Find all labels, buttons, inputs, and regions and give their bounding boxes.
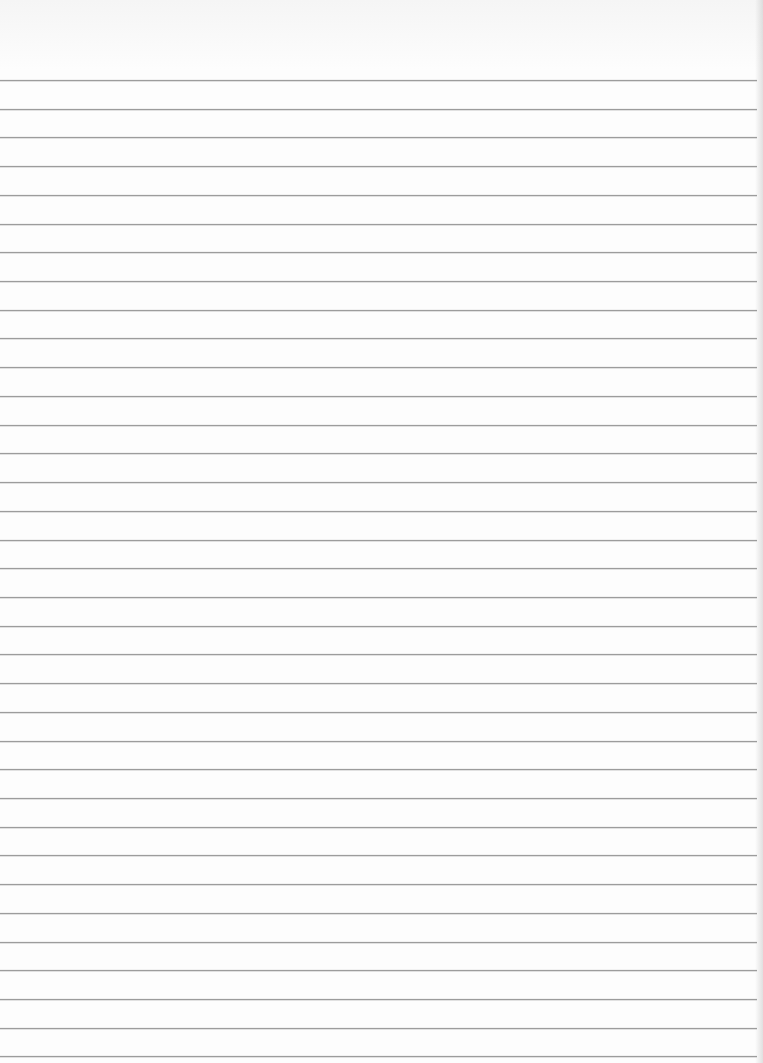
ruled-line <box>0 999 757 1000</box>
ruled-line <box>0 137 757 138</box>
ruled-line <box>0 281 757 282</box>
ruled-line <box>0 683 757 684</box>
ruled-line <box>0 827 757 828</box>
ruled-line <box>0 970 757 971</box>
ruled-line <box>0 597 757 598</box>
ruled-line <box>0 1056 757 1057</box>
ruled-line <box>0 453 757 454</box>
ruled-line <box>0 338 757 339</box>
ruled-line <box>0 482 757 483</box>
ruled-line <box>0 855 757 856</box>
ruled-line <box>0 798 757 799</box>
ruled-line <box>0 252 757 253</box>
ruled-line <box>0 109 757 110</box>
ruled-line <box>0 540 757 541</box>
ruled-line <box>0 654 757 655</box>
ruled-line <box>0 425 757 426</box>
ruled-line <box>0 568 757 569</box>
ruled-line <box>0 367 757 368</box>
ruled-line <box>0 310 757 311</box>
ruled-line <box>0 626 757 627</box>
ruled-line <box>0 1028 757 1029</box>
ruled-line <box>0 166 757 167</box>
ruled-line <box>0 511 757 512</box>
ruled-line <box>0 942 757 943</box>
lined-paper-sheet <box>0 0 763 1063</box>
ruled-line <box>0 195 757 196</box>
ruled-line <box>0 80 757 81</box>
ruled-line <box>0 884 757 885</box>
page-edge-shadow <box>755 0 763 1063</box>
ruled-line <box>0 712 757 713</box>
ruled-line <box>0 741 757 742</box>
ruled-line <box>0 913 757 914</box>
ruled-line <box>0 769 757 770</box>
ruled-line <box>0 224 757 225</box>
ruled-line <box>0 396 757 397</box>
